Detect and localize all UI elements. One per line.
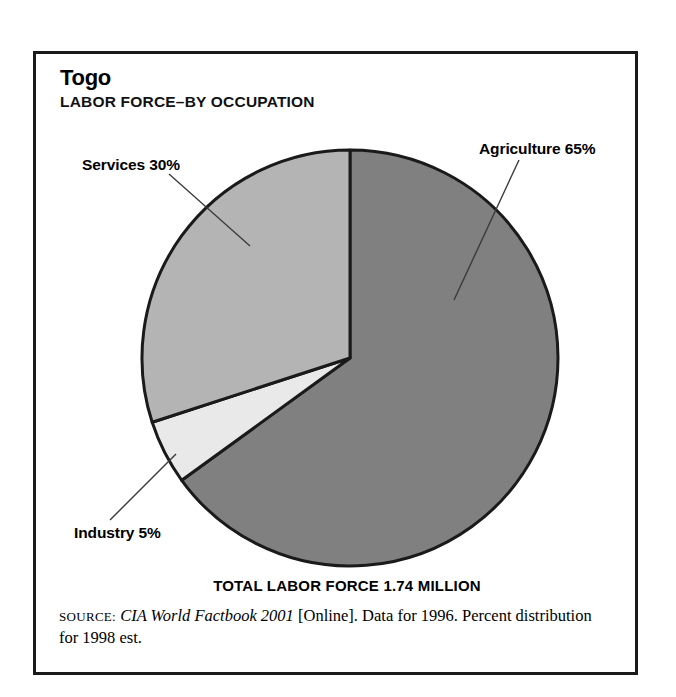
pie-label-industry: Industry 5% <box>74 524 161 541</box>
pie-label-services: Services 30% <box>82 156 180 173</box>
total-labor-force-caption: TOTAL LABOR FORCE 1.74 MILLION <box>213 577 481 594</box>
pie-label-agriculture: Agriculture 65% <box>479 140 596 157</box>
source-publication: CIA World Factbook 2001 <box>120 606 294 625</box>
figure-frame: Togo LABOR FORCE–BY OCCUPATION Agricultu… <box>33 51 638 675</box>
source-note: SOURCE: CIA World Factbook 2001 [Online]… <box>59 605 611 648</box>
leader-line-industry <box>110 454 176 520</box>
pie-chart: Agriculture 65% Services 30% Industry 5%… <box>36 54 635 672</box>
source-label: SOURCE: <box>59 609 116 624</box>
